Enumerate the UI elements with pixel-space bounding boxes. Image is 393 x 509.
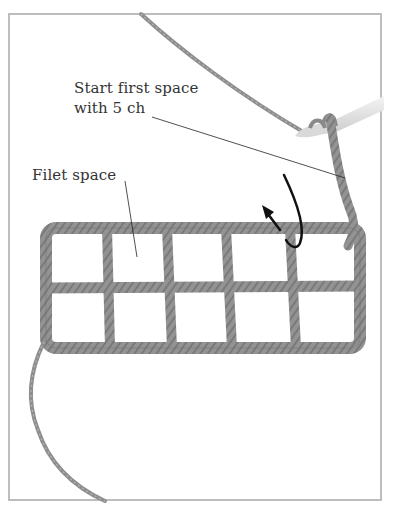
crochet-hook-icon bbox=[295, 96, 384, 137]
label-start-first-space: Start first space with 5 ch bbox=[74, 78, 198, 118]
leader-line-filet-space bbox=[125, 181, 137, 257]
crochet-illustration bbox=[0, 0, 393, 509]
yarn-tail-bottom bbox=[31, 342, 105, 501]
label-filet-space: Filet space bbox=[32, 165, 116, 185]
label-line-1: Start first space bbox=[74, 78, 198, 98]
label-line-2: with 5 ch bbox=[74, 98, 198, 118]
filet-swatch bbox=[46, 228, 360, 348]
turn-arrow-icon bbox=[262, 175, 302, 247]
